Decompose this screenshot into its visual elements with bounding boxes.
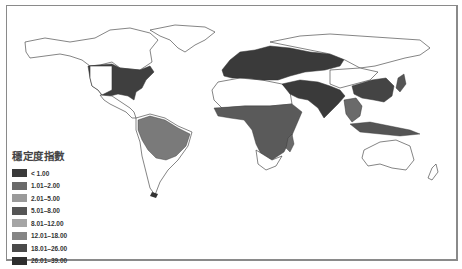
legend-label: 1.01–2.00 [31,182,60,189]
legend-item: 5.01–8.00 [12,205,67,217]
legend-swatch [12,182,27,190]
legend-swatch [12,169,27,177]
legend-swatch [12,244,27,252]
legend-item: 18.01–26.00 [12,242,67,254]
legend-swatch [12,232,27,240]
canada-alaska [25,28,158,70]
legend-swatch [12,194,27,202]
southeast-asia [344,98,362,122]
legend-item: < 1.00 [12,167,67,179]
legend-label: 5.01–8.00 [31,207,60,214]
legend-label: < 1.00 [31,170,49,177]
indonesia [350,122,420,136]
tierra-del-fuego [150,192,158,198]
legend-label: 12.01–18.00 [31,232,67,239]
mexico-central-america [100,95,136,118]
legend: 穩定度指數 < 1.00 1.01–2.00 2.01–5.00 5.01–8.… [12,148,67,267]
legend-label: 2.01–5.00 [31,195,60,202]
western-us [90,66,112,95]
legend-item: 26.01–39.00 [12,255,67,267]
legend-item: 2.01–5.00 [12,192,67,204]
legend-title: 穩定度指數 [12,148,67,163]
world-map [0,0,462,269]
legend-label: 8.01–12.00 [31,220,64,227]
new-zealand [428,164,438,180]
north-africa [212,78,292,108]
legend-label: 18.01–26.00 [31,245,67,252]
greenland [150,25,215,52]
legend-item: 1.01–2.00 [12,180,67,192]
legend-item: 8.01–12.00 [12,217,67,229]
australia [362,140,414,170]
legend-swatch [12,207,27,215]
legend-item: 12.01–18.00 [12,230,67,242]
legend-swatch [12,219,27,227]
japan [396,74,406,92]
legend-swatch [12,257,27,265]
legend-label: 26.01–39.00 [31,257,67,264]
